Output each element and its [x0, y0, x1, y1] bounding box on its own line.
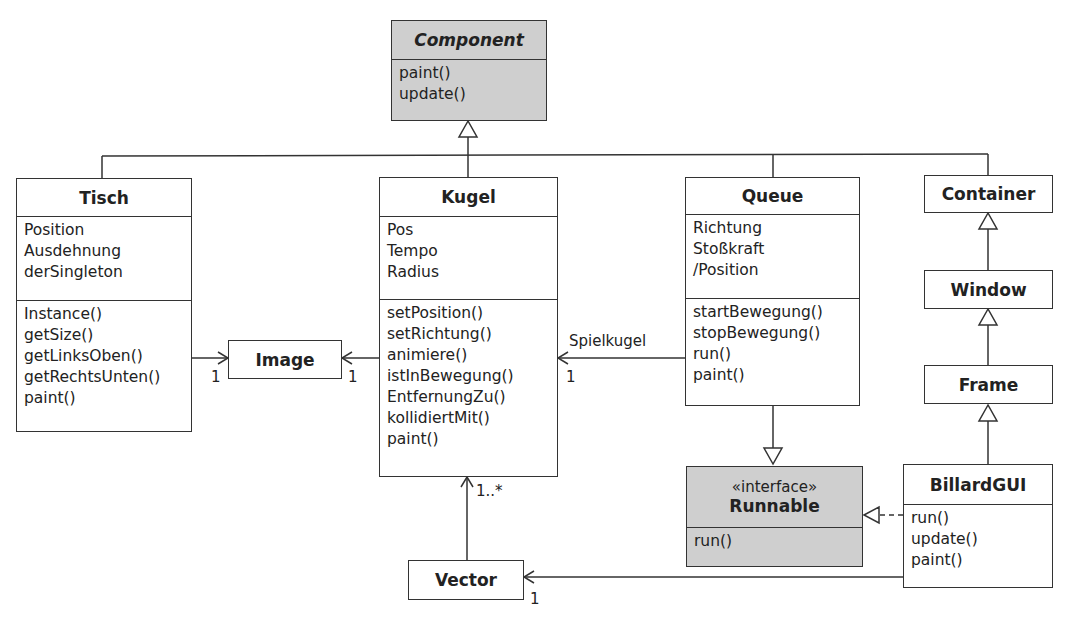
- multiplicity-vector-kugel: 1..*: [476, 482, 503, 500]
- operation: run(): [911, 508, 1045, 529]
- attribute: Stoßkraft: [693, 239, 852, 260]
- attribute: Richtung: [693, 218, 852, 239]
- interface-name: Runnable: [687, 496, 862, 516]
- class-queue[interactable]: Queue Richtung Stoßkraft /Position start…: [685, 177, 860, 406]
- class-title: Kugel: [380, 178, 557, 217]
- class-title: Image: [229, 341, 341, 378]
- class-title: BillardGUI: [904, 465, 1052, 505]
- operation: Instance(): [24, 304, 184, 325]
- multiplicity-tisch-image: 1: [211, 368, 221, 386]
- class-attributes: Position Ausdehnung derSingleton: [17, 217, 191, 301]
- class-container[interactable]: Container: [924, 175, 1053, 213]
- class-tisch[interactable]: Tisch Position Ausdehnung derSingleton I…: [16, 178, 192, 432]
- class-vector[interactable]: Vector: [408, 560, 524, 600]
- operation: startBewegung(): [693, 302, 852, 323]
- operation: getSize(): [24, 325, 184, 346]
- class-title: Frame: [925, 366, 1052, 403]
- class-title: «interface» Runnable: [687, 467, 862, 528]
- operation: animiere(): [387, 345, 550, 366]
- operation: setRichtung(): [387, 324, 550, 345]
- attribute: derSingleton: [24, 262, 184, 283]
- class-operations: setPosition() setRichtung() animiere() i…: [380, 300, 557, 453]
- class-title: Tisch: [17, 179, 191, 217]
- class-operations: paint() update(): [392, 60, 546, 108]
- operation: stopBewegung(): [693, 323, 852, 344]
- role-spielkugel: Spielkugel: [569, 332, 646, 350]
- class-title: Container: [925, 176, 1052, 212]
- class-kugel[interactable]: Kugel Pos Tempo Radius setPosition() set…: [379, 177, 558, 477]
- attribute: Position: [24, 220, 184, 241]
- class-component[interactable]: Component paint() update(): [391, 20, 547, 121]
- class-billardgui[interactable]: BillardGUI run() update() paint(): [903, 464, 1053, 588]
- operation: kollidiertMit(): [387, 408, 550, 429]
- class-operations: run(): [687, 528, 862, 555]
- class-title: Queue: [686, 178, 859, 215]
- class-operations: startBewegung() stopBewegung() run() pai…: [686, 299, 859, 389]
- operation: paint(): [399, 63, 539, 84]
- operation: EntfernungZu(): [387, 387, 550, 408]
- operation: istInBewegung(): [387, 366, 550, 387]
- class-attributes: Pos Tempo Radius: [380, 217, 557, 300]
- operation: paint(): [24, 388, 184, 409]
- class-title: Component: [392, 21, 546, 60]
- operation: run(): [693, 344, 852, 365]
- attribute: Radius: [387, 262, 550, 283]
- class-image[interactable]: Image: [228, 340, 342, 379]
- operation: paint(): [387, 429, 550, 450]
- class-window[interactable]: Window: [924, 270, 1053, 309]
- class-operations: Instance() getSize() getLinksOben() getR…: [17, 301, 191, 412]
- class-frame[interactable]: Frame: [924, 365, 1053, 404]
- operation: paint(): [693, 365, 852, 386]
- class-attributes: Richtung Stoßkraft /Position: [686, 215, 859, 299]
- multiplicity-queue-kugel: 1: [566, 368, 576, 386]
- class-title: Vector: [409, 561, 523, 599]
- class-operations: run() update() paint(): [904, 505, 1052, 574]
- attribute: Ausdehnung: [24, 241, 184, 262]
- multiplicity-kugel-image: 1: [348, 368, 358, 386]
- operation: paint(): [911, 550, 1045, 571]
- operation: update(): [911, 529, 1045, 550]
- operation: run(): [694, 531, 855, 552]
- multiplicity-billardgui-vector: 1: [530, 590, 540, 608]
- attribute: Pos: [387, 220, 550, 241]
- operation: setPosition(): [387, 303, 550, 324]
- operation: getLinksOben(): [24, 346, 184, 367]
- operation: getRechtsUnten(): [24, 367, 184, 388]
- operation: update(): [399, 84, 539, 105]
- attribute: /Position: [693, 260, 852, 281]
- attribute: Tempo: [387, 241, 550, 262]
- stereotype: «interface»: [687, 478, 862, 496]
- interface-runnable[interactable]: «interface» Runnable run(): [686, 466, 863, 567]
- class-title: Window: [925, 271, 1052, 308]
